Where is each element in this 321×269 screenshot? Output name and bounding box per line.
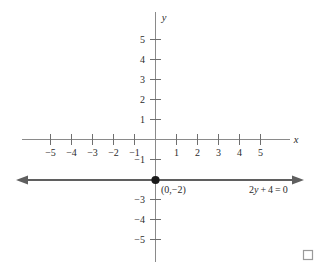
- x-tick-label: 5: [258, 147, 263, 158]
- y-axis-label: y: [161, 12, 167, 23]
- x-tick-label: −2: [108, 147, 119, 158]
- x-tick-labels: −5 −4 −3 −2 −1 1 2 3 4 5: [45, 147, 263, 158]
- x-tick-label: −3: [87, 147, 98, 158]
- y-tick-label: 1: [140, 114, 145, 125]
- y-tick-label: 2: [140, 94, 145, 105]
- x-tick-label: 3: [216, 147, 221, 158]
- y-tick-label: 3: [140, 74, 145, 85]
- y-tick-label: −4: [134, 214, 145, 225]
- corner-square-marker: [304, 251, 313, 260]
- equation-remainder: + 4 = 0: [258, 184, 287, 195]
- x-tick-label: 4: [237, 147, 242, 158]
- y-tick-label: −3: [134, 194, 145, 205]
- x-tick-label: −4: [66, 147, 77, 158]
- y-tick-label: −1: [134, 154, 145, 165]
- point-label: (0,−2): [161, 184, 186, 196]
- y-tick-label: 5: [140, 34, 145, 45]
- x-tick-label: 1: [174, 147, 179, 158]
- line-right-arrowhead: [292, 175, 304, 184]
- line-left-arrowhead: [16, 175, 28, 184]
- y-tick-label: −5: [134, 234, 145, 245]
- equation-label: 2y + 4 = 0: [249, 184, 288, 195]
- point-marker-0-minus2: [151, 176, 159, 184]
- x-tick-label: 2: [195, 147, 200, 158]
- y-tick-label: 4: [140, 54, 145, 65]
- x-axis-label: x: [293, 134, 299, 145]
- x-tick-label: −5: [45, 147, 56, 158]
- coordinate-plane-figure: −5 −4 −3 −2 −1 1 2 3 4 5 5 4 3 2 1 −1 −3…: [0, 0, 321, 269]
